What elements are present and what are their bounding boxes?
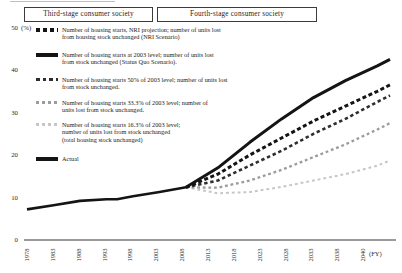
- legend-label-line: from housing stock unchanged (NRI Scenar…: [62, 33, 297, 40]
- legend-label-p163: Number of housing starts 16.3% of 2003 l…: [62, 121, 297, 143]
- x-axis-fy-label: (FY): [369, 250, 382, 257]
- y-tick-label: 30: [0, 109, 18, 117]
- x-tick-label: 1988: [74, 245, 84, 265]
- x-tick-label: 1983: [48, 245, 58, 265]
- y-tick-label: 10: [0, 194, 18, 202]
- y-tick-label: 50: [0, 24, 18, 32]
- y-tick-label: 0: [0, 236, 18, 244]
- legend-label-line: Number of housing starts 33.3% of 2003 l…: [62, 99, 297, 106]
- legend-label-line: Actual: [62, 155, 297, 162]
- legend-label-line: Number of housing starts at 2003 level; …: [62, 51, 297, 58]
- legend-marker-actual-solid-line-icon: [36, 157, 58, 161]
- legend-label-line: Number of housing starts 50% of 2003 lev…: [62, 76, 297, 83]
- legend-label-nri: Number of housing starts, NRI projection…: [62, 26, 297, 41]
- legend-label-line: (total housing stock unchanged): [62, 136, 297, 143]
- chart-figure: Third-stage consumer society Fourth-stag…: [0, 0, 402, 273]
- x-tick-label: 1993: [100, 245, 110, 265]
- x-tick-label: 2028: [281, 245, 291, 265]
- y-tick-label: 40: [0, 66, 18, 74]
- x-tick-label: 2008: [177, 245, 187, 265]
- legend-label-line: number of units lost from stock unchange…: [62, 128, 297, 135]
- x-tick-label: 2038: [332, 245, 342, 265]
- legend-marker-p163-dashed-line-icon: [36, 123, 58, 126]
- x-tick-label: 1978: [22, 245, 32, 265]
- legend-label-line: from stock unchanged.: [62, 83, 297, 90]
- legend-marker-p50-dashed-line-icon: [36, 78, 58, 81]
- x-tick-label: 2023: [255, 245, 265, 265]
- x-tick-label: 2003: [151, 245, 161, 265]
- series-actual-line: [27, 187, 186, 209]
- x-tick-label: 2018: [229, 245, 239, 265]
- legend-label-line: units lost from stock unchanged.: [62, 106, 297, 113]
- y-tick-label: 20: [0, 151, 18, 159]
- legend-marker-nri-dashed-line-icon: [36, 28, 58, 32]
- legend-marker-status_quo-solid-line-icon: [36, 53, 58, 57]
- x-tick-label: 2013: [203, 245, 213, 265]
- legend-label-status_quo: Number of housing starts at 2003 level; …: [62, 51, 297, 66]
- legend-label-line: Number of housing starts 16.3% of 2003 l…: [62, 121, 297, 128]
- legend-label-line: Number of housing starts, NRI projection…: [62, 26, 297, 33]
- x-tick-label: 1998: [125, 245, 135, 265]
- y-axis-unit: (%): [21, 24, 31, 32]
- legend-marker-p333-dashed-line-icon: [36, 101, 58, 104]
- legend-label-p333: Number of housing starts 33.3% of 2003 l…: [62, 99, 297, 114]
- legend-label-actual: Actual: [62, 155, 297, 162]
- legend-label-line: from stock unchanged (Status Quo Scenari…: [62, 58, 297, 65]
- legend-label-p50: Number of housing starts 50% of 2003 lev…: [62, 76, 297, 91]
- x-tick-label: 2040: [358, 245, 368, 265]
- x-tick-label: 2033: [306, 245, 316, 265]
